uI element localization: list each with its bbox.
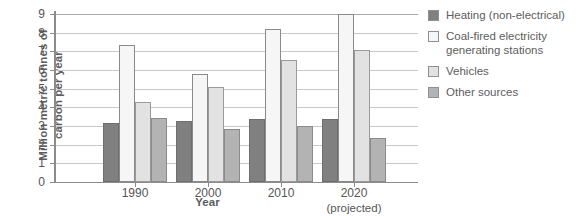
legend-item: Heating (non-electrical)	[428, 8, 586, 22]
bar	[297, 126, 313, 182]
y-tick-label: 9	[23, 8, 45, 20]
bar	[192, 74, 208, 182]
y-tick-label: 4	[23, 101, 45, 113]
y-tick-label: 1	[23, 157, 45, 169]
chart-legend: Heating (non-electrical)Coal-fired elect…	[428, 8, 586, 106]
bar	[176, 121, 192, 182]
bar	[338, 14, 354, 182]
y-tick-label: 2	[23, 139, 45, 151]
y-tick-mark	[50, 89, 55, 90]
y-tick-label: 3	[23, 120, 45, 132]
bar	[208, 87, 224, 182]
legend-swatch-icon	[428, 10, 439, 21]
y-tick-mark	[50, 51, 55, 52]
bar-group	[176, 14, 240, 182]
legend-item: Coal-fired electricity generating statio…	[428, 29, 586, 57]
bar	[370, 138, 386, 182]
y-tick-mark	[50, 14, 55, 15]
bar-group	[103, 14, 167, 182]
legend-item: Vehicles	[428, 64, 586, 78]
legend-label: Other sources	[446, 85, 518, 99]
y-tick-mark	[50, 70, 55, 71]
y-tick-label: 0	[23, 176, 45, 188]
y-tick-mark	[50, 107, 55, 108]
plot-area: 0123456789 1990200020102020(projected)	[54, 14, 361, 182]
y-tick-mark	[50, 163, 55, 164]
y-tick-mark	[50, 182, 55, 183]
chart-figure: Million metric tonnes of carbon per year…	[0, 0, 586, 216]
legend-label: Heating (non-electrical)	[446, 8, 565, 22]
legend-item: Other sources	[428, 85, 586, 99]
bar-group	[322, 14, 386, 182]
bar	[354, 50, 370, 182]
legend-label: Coal-fired electricity generating statio…	[446, 29, 547, 57]
y-tick-mark	[50, 145, 55, 146]
bar	[135, 102, 151, 182]
legend-label: Vehicles	[446, 64, 489, 78]
bar	[224, 129, 240, 182]
y-tick-mark	[50, 33, 55, 34]
legend-swatch-icon	[428, 87, 439, 98]
y-tick-label: 8	[23, 27, 45, 39]
bar	[249, 119, 265, 182]
bar	[281, 60, 297, 182]
bar	[322, 119, 338, 182]
bar	[151, 118, 167, 182]
y-tick-label: 6	[23, 64, 45, 76]
legend-swatch-icon	[428, 66, 439, 77]
y-tick-label: 7	[23, 45, 45, 57]
y-tick-mark	[50, 126, 55, 127]
bar	[119, 45, 135, 182]
x-axis-line	[54, 182, 418, 183]
x-axis-title: Year	[54, 196, 361, 208]
bar	[103, 123, 119, 182]
legend-swatch-icon	[428, 31, 439, 42]
bar	[265, 29, 281, 182]
y-axis-line	[54, 11, 56, 183]
y-tick-label: 5	[23, 83, 45, 95]
bar-group	[249, 14, 313, 182]
